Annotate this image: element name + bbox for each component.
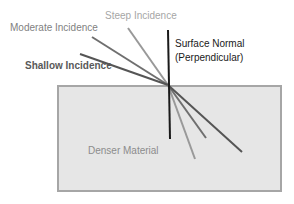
shallow-incidence-label: Shallow Incidence bbox=[25, 60, 112, 72]
denser-material-label: Denser Material bbox=[88, 145, 159, 157]
perpendicular-label: (Perpendicular) bbox=[175, 52, 243, 64]
steep-incidence-ray bbox=[128, 28, 168, 85]
surface-normal-label: Surface Normal bbox=[175, 38, 244, 50]
steep-incidence-label: Steep Incidence bbox=[105, 10, 177, 22]
moderate-incidence-label: Moderate Incidence bbox=[10, 22, 98, 34]
